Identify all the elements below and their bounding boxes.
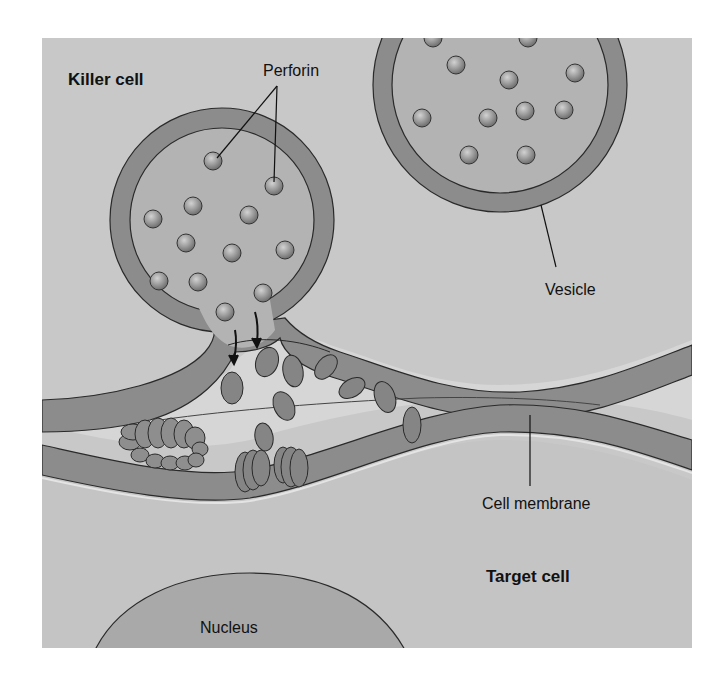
perforin-diagram: Killer cell Perforin Vesicle Cell membra… bbox=[0, 0, 724, 683]
label-vesicle: Vesicle bbox=[545, 281, 596, 298]
label-cell-membrane: Cell membrane bbox=[482, 495, 591, 512]
label-target-cell: Target cell bbox=[486, 567, 570, 586]
label-killer-cell: Killer cell bbox=[68, 70, 144, 89]
label-nucleus: Nucleus bbox=[200, 619, 258, 636]
inserted-perforin bbox=[403, 407, 421, 443]
label-perforin: Perforin bbox=[263, 62, 319, 79]
